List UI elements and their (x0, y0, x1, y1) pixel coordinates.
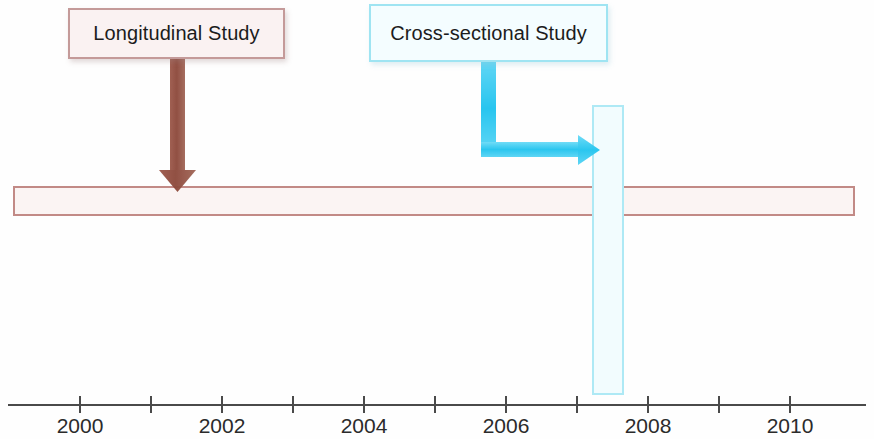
tick-2004 (363, 396, 365, 413)
tick-2005 (434, 396, 436, 413)
tick-2002 (221, 396, 223, 413)
cross-sectional-study-label-text: Cross-sectional Study (390, 22, 587, 45)
tick-label-2000: 2000 (57, 414, 104, 438)
tick-2001 (150, 396, 152, 413)
diagram-canvas: Longitudinal Study Cross-sectional Study… (0, 0, 874, 439)
tick-2009 (718, 396, 720, 413)
longitudinal-study-label-box[interactable]: Longitudinal Study (68, 8, 285, 59)
cross-sectional-study-label-box[interactable]: Cross-sectional Study (369, 4, 608, 62)
tick-2003 (292, 396, 294, 413)
tick-label-2002: 2002 (199, 414, 246, 438)
tick-label-2008: 2008 (625, 414, 672, 438)
tick-2007 (576, 396, 578, 413)
tick-2010 (789, 396, 791, 413)
tick-label-2006: 2006 (483, 414, 530, 438)
tick-label-2004: 2004 (341, 414, 388, 438)
longitudinal-study-label-text: Longitudinal Study (93, 22, 259, 45)
cross-sectional-elbow-arrow-icon (0, 0, 874, 439)
tick-label-2010: 2010 (767, 414, 814, 438)
tick-2008 (647, 396, 649, 413)
timeline-axis-line (8, 404, 866, 406)
tick-2000 (79, 396, 81, 413)
tick-2006 (505, 396, 507, 413)
